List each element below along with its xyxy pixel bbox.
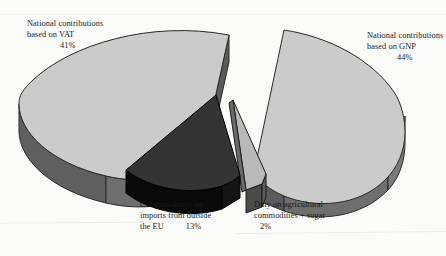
slice-label-agricultural-duty: Duty on agricultural commodities + sugar…: [254, 199, 325, 233]
slice-label-gnp-line2: based on GNP: [367, 42, 416, 51]
slice-label-gnp-line1: National contributions: [367, 31, 443, 40]
slice-label-customs-duties: Customs duties on imports from outside t…: [140, 199, 211, 233]
slice-value-vat: 41%: [60, 40, 103, 51]
slice-label-customs-line1: Customs duties on: [140, 200, 203, 209]
slice-label-vat-line2: based on VAT: [27, 30, 74, 39]
slice-label-duty-line1: Duty on agricultural: [254, 200, 323, 209]
slice-value-customs: 13%: [186, 222, 202, 231]
slice-value-duty: 2%: [260, 221, 325, 232]
slice-label-duty-line2: commodities + sugar: [254, 211, 325, 220]
slice-label-gnp: National contributions based on GNP 44%: [367, 30, 443, 64]
slice-value-gnp: 44%: [397, 52, 443, 63]
pie-chart-figure: National contributions based on VAT 41% …: [0, 0, 446, 256]
slice-label-customs-line2: imports from outside: [140, 211, 211, 220]
slice-label-vat: National contributions based on VAT 41%: [27, 18, 103, 52]
slice-label-vat-line1: National contributions: [27, 19, 103, 28]
slice-label-customs-line3: the EU: [140, 222, 164, 231]
